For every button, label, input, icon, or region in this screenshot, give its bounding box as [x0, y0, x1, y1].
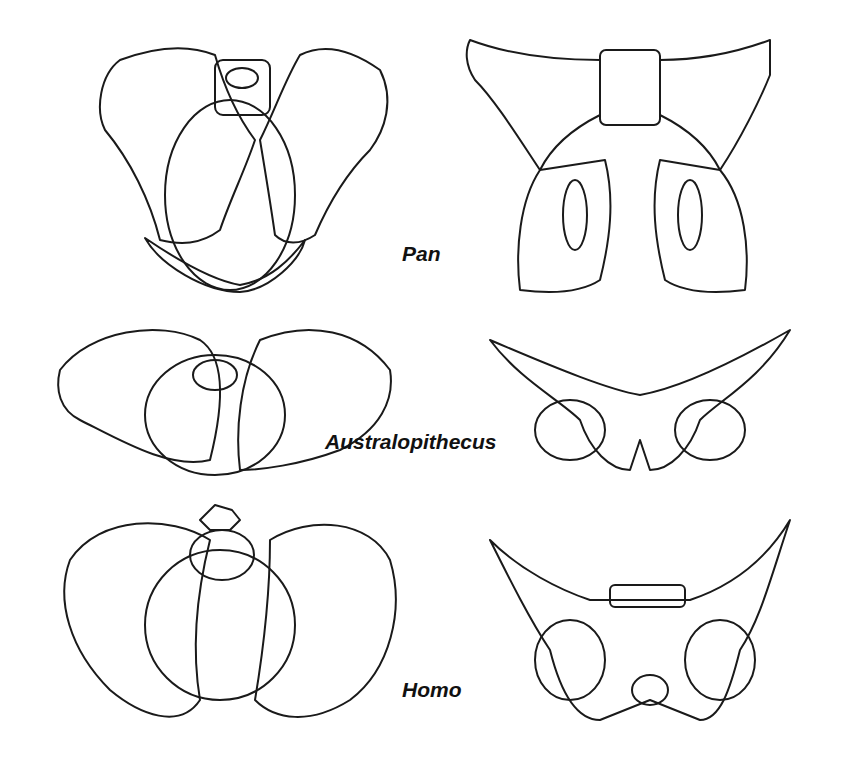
- pelvis-comparison-diagram: Pan Australopithecus Homo: [0, 0, 842, 764]
- label-australopithecus: Australopithecus: [325, 430, 497, 454]
- label-homo: Homo: [402, 678, 462, 702]
- label-pan: Pan: [402, 242, 441, 266]
- homo-pelvis-rear-drawing: [0, 0, 842, 764]
